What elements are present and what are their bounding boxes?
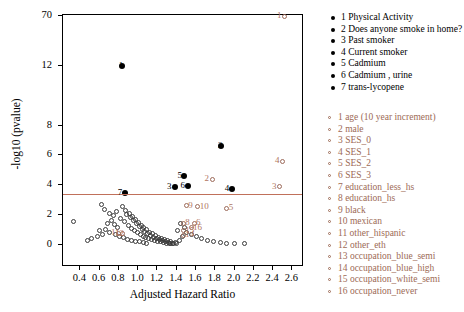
x-tick-label: 2.6 (274, 272, 308, 283)
legend-covariate-item: 9 black (327, 205, 440, 217)
legend-item-label: 5 Cadmium (341, 58, 386, 68)
x-tick (79, 266, 80, 270)
legend-covariate-item: 13 occupation_blue_semi (327, 251, 440, 263)
legend-item-label: 3 Past smoker (341, 35, 394, 45)
data-point (175, 228, 180, 233)
legend-marker-icon (331, 74, 335, 78)
legend-item-label: 12 other_eth (338, 240, 386, 250)
point-label: 5 (178, 171, 183, 180)
legend-covariate-item: 5 SES_2 (327, 158, 440, 170)
y-tick (58, 154, 62, 155)
data-point (100, 232, 105, 237)
legend-marker-icon (328, 278, 331, 281)
point-label: 2 (218, 141, 223, 150)
legend-marker-icon (331, 62, 335, 66)
y-tick-label: 12 (30, 59, 52, 70)
legend-marker-icon (331, 28, 335, 32)
legend-marker-icon (331, 39, 335, 43)
legend-covariate-item: 7 education_less_hs (327, 182, 440, 194)
legend-marker-icon (328, 232, 331, 235)
data-point (199, 236, 204, 241)
legend-marker-icon (331, 16, 335, 20)
y-tick-label: 8 (30, 119, 52, 130)
data-point (232, 241, 237, 246)
legend-covariates: 1 age (10 year increment)2 male3 SES_04 … (327, 112, 440, 298)
y-tick (58, 244, 62, 245)
x-tick (99, 266, 100, 270)
legend-marker-icon (328, 174, 331, 177)
x-tick (118, 266, 119, 270)
legend-marker-icon (328, 209, 331, 212)
legend-item-label: 10 mexican (338, 216, 382, 226)
data-point (102, 207, 107, 212)
legend-marker-icon (328, 116, 331, 119)
data-point (205, 238, 210, 243)
data-point (172, 184, 178, 190)
legend-covariate-item: 1 age (10 year increment) (327, 112, 440, 124)
x-tick (214, 266, 215, 270)
legend-exposure-item: 4 Current smoker (330, 47, 462, 59)
legend-item-label: 6 Cadmium , urine (341, 70, 412, 80)
data-point (114, 209, 119, 214)
legend-marker-icon (328, 220, 331, 223)
point-label: 5 (229, 203, 234, 212)
legend-item-label: 4 SES_1 (338, 147, 371, 157)
x-tick (253, 266, 254, 270)
legend-item-label: 8 education_hs (338, 193, 395, 203)
y-tick (58, 65, 62, 66)
x-tick (156, 266, 157, 270)
x-tick (291, 266, 292, 270)
legend-marker-icon (328, 162, 331, 165)
legend-exposure-item: 2 Does anyone smoke in home? (330, 24, 462, 36)
data-point (280, 159, 285, 164)
legend-item-label: 15 occupation_white_semi (338, 274, 440, 284)
legend-marker-icon (331, 86, 335, 90)
data-point (95, 234, 100, 239)
legend-item-label: 5 SES_2 (338, 158, 371, 168)
point-label: 2 (205, 174, 210, 183)
point-label: 16 (193, 223, 202, 232)
legend-item-label: 7 education_less_hs (338, 182, 414, 192)
point-label: 9 (188, 201, 193, 210)
legend-marker-icon (328, 186, 331, 189)
x-tick (137, 266, 138, 270)
legend-marker-icon (328, 244, 331, 247)
legend-marker-icon (328, 290, 331, 293)
x-tick (195, 266, 196, 270)
legend-item-label: 4 Current smoker (341, 47, 408, 57)
point-label: 10 (200, 202, 209, 211)
y-axis-label: -log10 (pvalue) (10, 74, 22, 194)
data-point (144, 241, 149, 246)
legend-marker-icon (331, 51, 335, 55)
x-axis-label: Adjusted Hazard Ratio (62, 288, 303, 300)
legend-covariate-item: 12 other_eth (327, 240, 440, 252)
y-tick-label: 70 (30, 9, 52, 20)
y-tick (58, 15, 62, 16)
point-label: 6 (181, 181, 186, 190)
legend-item-label: 2 male (338, 124, 364, 134)
legend-covariate-item: 8 education_hs (327, 193, 440, 205)
data-point (211, 239, 216, 244)
legend-exposure-item: 5 Cadmium (330, 58, 462, 70)
data-point (242, 241, 247, 246)
y-tick-label: 2 (30, 208, 52, 219)
data-point (185, 183, 191, 189)
legend-exposures: 1 Physical Activity2 Does anyone smoke i… (330, 12, 462, 93)
data-point (218, 240, 223, 245)
chart-figure: 125364714239105861615141211 Adjusted Haz… (0, 0, 464, 312)
legend-item-label: 13 occupation_blue_semi (338, 251, 435, 261)
data-point (85, 238, 90, 243)
y-tick (58, 214, 62, 215)
data-point (168, 239, 173, 244)
legend-item-label: 6 SES_3 (338, 170, 371, 180)
data-point (277, 184, 282, 189)
legend-item-label: 1 age (10 year increment) (338, 112, 436, 122)
legend-marker-icon (328, 151, 331, 154)
x-tick (272, 266, 273, 270)
legend-item-label: 14 occupation_blue_high (338, 263, 434, 273)
legend-item-label: 11 other_hispanic (338, 228, 405, 238)
legend-item-label: 2 Does anyone smoke in home? (341, 24, 462, 34)
legend-covariate-item: 15 occupation_white_semi (327, 274, 440, 286)
point-label: 1 (277, 11, 282, 20)
point-label: 4 (225, 184, 230, 193)
